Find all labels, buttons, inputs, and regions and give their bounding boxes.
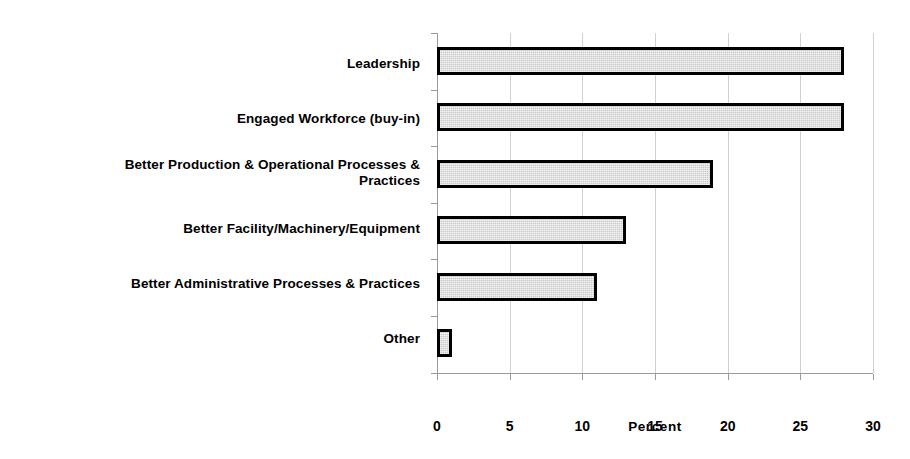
category-label-line: Practices (359, 173, 420, 188)
bar-leadership (437, 47, 844, 75)
x-axis-tick (800, 374, 801, 380)
gridline-10 (582, 33, 583, 373)
category-axis-labels: Leadership Engaged Workforce (buy-in) Be… (0, 33, 428, 373)
category-label-better-production: Better Production & Operational Processe… (0, 157, 420, 189)
category-label-line: Better Production & Operational Processe… (125, 157, 420, 172)
x-axis-tick (582, 374, 583, 380)
bar-better-administrative (437, 273, 597, 301)
bar-engaged-workforce (437, 103, 844, 131)
category-label-better-administrative: Better Administrative Processes & Practi… (0, 276, 420, 292)
y-axis-tick (431, 203, 437, 204)
category-label-other: Other (0, 331, 420, 347)
y-axis-tick (431, 90, 437, 91)
category-label-line: Engaged Workforce (buy-in) (237, 111, 420, 126)
category-label-leadership: Leadership (0, 56, 420, 72)
gridline-20 (728, 33, 729, 373)
gridline-30 (873, 33, 874, 373)
category-label-line: Leadership (347, 56, 420, 71)
category-label-engaged-workforce: Engaged Workforce (buy-in) (0, 111, 420, 127)
x-axis-title: Percent (437, 419, 873, 434)
gridline-15 (655, 33, 656, 373)
y-axis-line (437, 33, 438, 373)
category-label-line: Better Facility/Machinery/Equipment (183, 221, 420, 236)
x-axis-tick (510, 374, 511, 380)
category-label-better-facility: Better Facility/Machinery/Equipment (0, 221, 420, 237)
y-axis-tick (431, 146, 437, 147)
bar-better-facility (437, 216, 626, 244)
x-axis-tick (873, 374, 874, 380)
bar-better-production (437, 160, 713, 188)
x-axis-tick (728, 374, 729, 380)
gridline-5 (510, 33, 511, 373)
gridline-25 (800, 33, 801, 373)
bar-chart: Leadership Engaged Workforce (buy-in) Be… (0, 0, 910, 459)
category-label-line: Other (383, 331, 420, 346)
category-label-line: Better Administrative Processes & Practi… (131, 276, 420, 291)
x-axis-tick (655, 374, 656, 380)
y-axis-tick (431, 259, 437, 260)
y-axis-tick (431, 33, 437, 34)
x-axis-tick (437, 374, 438, 380)
y-axis-tick (431, 316, 437, 317)
bar-other (437, 329, 452, 357)
plot-area: 0 5 10 15 20 25 30 (437, 33, 873, 373)
